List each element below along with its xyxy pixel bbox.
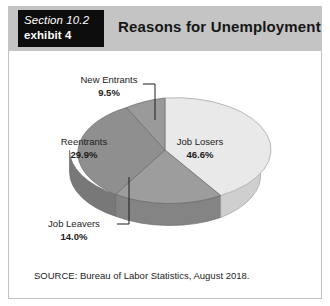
slice-label-new-entrants-name: New Entrants: [61, 74, 157, 87]
section-tag-line2: exhibit 4: [24, 28, 104, 43]
source-note: SOURCE: Bureau of Labor Statistics, Augu…: [34, 270, 249, 281]
pie-chart-plot-area: New Entrants 9.5% Reentrants 29.9% Job L…: [9, 52, 321, 262]
slice-label-job-leavers-pct: 14.0%: [27, 231, 121, 244]
slice-label-new-entrants: New Entrants 9.5%: [61, 74, 157, 100]
slice-label-job-losers-pct: 46.6%: [157, 149, 243, 162]
slice-label-reentrants-pct: 29.9%: [41, 149, 127, 162]
slice-label-job-leavers: Job Leavers 14.0%: [27, 218, 121, 244]
slice-label-reentrants: Reentrants 29.9%: [41, 136, 127, 162]
slice-label-new-entrants-pct: 9.5%: [61, 87, 157, 100]
section-tag-line1: Section 10.2: [24, 13, 104, 28]
chart-title: Reasons for Unemployment: [118, 18, 321, 35]
exhibit-figure: Section 10.2 exhibit 4 Reasons for Unemp…: [0, 0, 330, 306]
slice-label-reentrants-name: Reentrants: [41, 136, 127, 149]
slice-label-job-leavers-name: Job Leavers: [27, 218, 121, 231]
slice-label-job-losers-name: Job Losers: [157, 136, 243, 149]
section-tag: Section 10.2 exhibit 4: [18, 10, 104, 47]
slice-label-job-losers: Job Losers 46.6%: [157, 136, 243, 162]
